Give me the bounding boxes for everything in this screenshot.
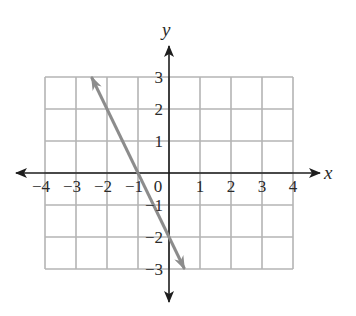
coordinate-plane: −4−3−2−101234321−1−2−3xy: [0, 0, 356, 316]
series-line-upper: [92, 77, 139, 173]
x-axis-label: x: [323, 162, 333, 183]
y-tick-label: −2: [145, 228, 163, 247]
y-tick-label: 1: [155, 132, 164, 151]
y-tick-label: 2: [155, 100, 164, 119]
x-tick-label: −3: [63, 177, 81, 196]
x-tick-label: 1: [196, 177, 205, 196]
axes: [16, 46, 320, 302]
x-tick-label: 2: [227, 177, 236, 196]
x-tick-label: −1: [125, 177, 143, 196]
tick-labels: −4−3−2−101234321−1−2−3xy: [32, 19, 333, 279]
x-tick-label: 4: [289, 177, 298, 196]
y-axis-label: y: [160, 19, 171, 40]
x-tick-label: −2: [94, 177, 112, 196]
y-tick-label: −1: [145, 196, 163, 215]
y-tick-label: −3: [145, 260, 163, 279]
x-tick-label: 3: [258, 177, 267, 196]
x-tick-label: −4: [32, 177, 51, 196]
y-tick-label: 3: [155, 68, 164, 87]
x-tick-label: 0: [154, 177, 163, 196]
